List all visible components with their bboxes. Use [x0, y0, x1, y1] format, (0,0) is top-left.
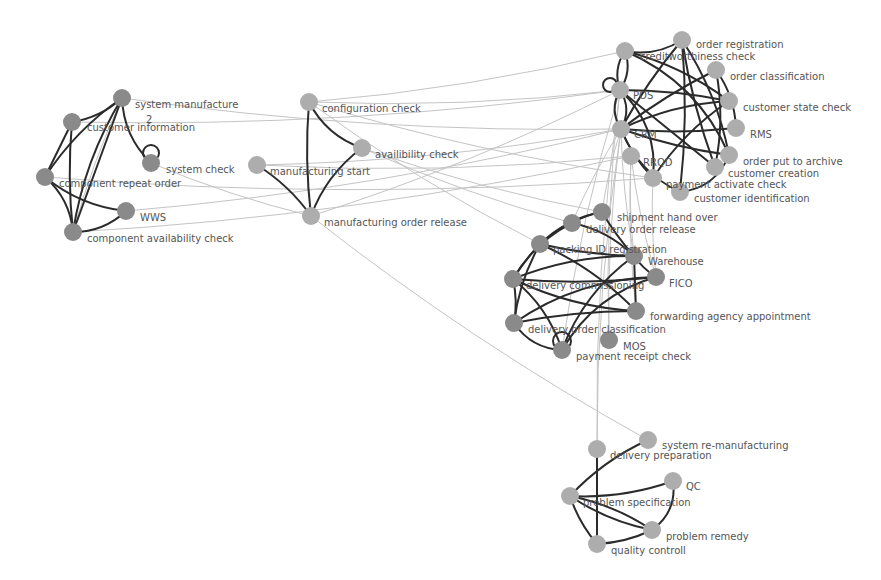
node-label-cid: customer identification — [694, 193, 810, 204]
node-label-sm: system manufacture — [135, 99, 238, 110]
node-cfg[interactable] — [300, 93, 318, 111]
node-srm[interactable] — [639, 431, 657, 449]
node-dpr[interactable] — [588, 440, 606, 458]
node-rrqd[interactable] — [622, 147, 640, 165]
node-qc[interactable] — [664, 472, 682, 490]
node-crm[interactable] — [612, 120, 630, 138]
edge-weight-annotation: 2 — [146, 114, 152, 125]
node-ocl[interactable] — [707, 61, 725, 79]
node-label-pos: POS — [633, 90, 653, 101]
node-csc[interactable] — [720, 92, 738, 110]
node-label-crm: CRM — [634, 129, 657, 140]
node-label-mor: manufacturing order release — [324, 217, 467, 228]
node-label-qct: quality controll — [611, 545, 686, 556]
node-label-prc: payment receipt check — [576, 351, 691, 362]
node-faa[interactable] — [627, 302, 645, 320]
node-label-fico: FICO — [669, 278, 693, 289]
node-doc[interactable] — [505, 314, 523, 332]
node-cac[interactable] — [64, 223, 82, 241]
node-label-psp: problem specification — [583, 497, 691, 508]
node-prm[interactable] — [643, 521, 661, 539]
node-label-rrqd: RRQD — [643, 157, 673, 168]
node-label-ocl: order classification — [730, 71, 825, 82]
node-label-rms: RMS — [750, 129, 772, 140]
node-pos[interactable] — [611, 81, 629, 99]
node-label-cac: component availability check — [87, 233, 234, 244]
strong-edge-avc-mor — [311, 148, 362, 216]
node-label-cwc: creditworthiness check — [640, 51, 756, 62]
node-label-faa: forwarding agency appointment — [650, 311, 811, 322]
network-graph: system manufacturecustomer informationsy… — [0, 0, 881, 580]
node-label-opa: order put to archive — [743, 156, 843, 167]
node-label-dpr: delivery preparation — [610, 450, 712, 461]
node-sm[interactable] — [113, 89, 131, 107]
node-cc[interactable] — [706, 158, 724, 176]
weak-edge-cfg-pos — [309, 90, 620, 104]
node-label-dcm: delivery commissioning — [526, 280, 644, 291]
node-prc[interactable] — [553, 341, 571, 359]
node-label-mst: manufacturing start — [270, 166, 370, 177]
node-sho[interactable] — [593, 203, 611, 221]
node-label-doc: delivery order classification — [528, 324, 666, 335]
node-oreg[interactable] — [673, 31, 691, 49]
node-sc[interactable] — [142, 154, 160, 172]
node-wws[interactable] — [117, 202, 135, 220]
label-layer: system manufacturecustomer informationsy… — [59, 39, 851, 556]
node-dor[interactable] — [563, 214, 581, 232]
node-label-csc: customer state check — [743, 102, 851, 113]
self-loop-layer — [143, 78, 617, 350]
node-mst[interactable] — [248, 156, 266, 174]
node-label-ci: customer information — [87, 122, 195, 133]
node-mor[interactable] — [302, 207, 320, 225]
node-label-cro: component repeat order — [59, 178, 182, 189]
strong-edge-sm-cro — [45, 98, 122, 177]
node-label-pac: payment activate check — [666, 179, 787, 190]
node-label-sho: shipment hand over — [617, 212, 719, 223]
node-dcm[interactable] — [504, 270, 522, 288]
node-fico[interactable] — [647, 268, 665, 286]
node-label-wh: Warehouse — [648, 256, 704, 267]
strong-edge-oreg-cid — [680, 40, 685, 192]
node-label-cc: customer creation — [728, 168, 819, 179]
strong-edge-srm-psp — [570, 440, 648, 496]
node-label-prm: problem remedy — [666, 531, 749, 542]
node-rms[interactable] — [727, 119, 745, 137]
node-label-cfg: configuration check — [322, 103, 421, 114]
node-qct[interactable] — [588, 535, 606, 553]
node-psp[interactable] — [561, 487, 579, 505]
node-opa[interactable] — [720, 146, 738, 164]
node-label-wws: WWS — [140, 212, 166, 223]
node-cro[interactable] — [36, 168, 54, 186]
node-label-pid: packing ID registration — [553, 244, 667, 255]
strong-edge-psp-qc — [570, 481, 673, 496]
node-pac[interactable] — [644, 169, 662, 187]
node-label-oreg: order registration — [696, 39, 784, 50]
node-label-dor: delivery order release — [586, 224, 696, 235]
node-pid[interactable] — [531, 235, 549, 253]
node-ci[interactable] — [63, 113, 81, 131]
node-cwc[interactable] — [616, 42, 634, 60]
node-avc[interactable] — [353, 139, 371, 157]
strong-edge-ci-cro — [45, 122, 72, 177]
node-label-qc: QC — [686, 481, 701, 492]
node-label-avc: availibility check — [375, 149, 459, 160]
node-label-sc: system check — [166, 164, 235, 175]
annotation-layer: 2 — [146, 114, 152, 125]
